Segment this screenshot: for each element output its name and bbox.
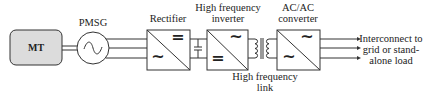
mt-label: MT: [10, 42, 62, 54]
hf-inverter-label-2: inverter: [193, 13, 263, 25]
ac-symbol: ~: [150, 49, 166, 65]
ac-symbol: ~: [281, 49, 297, 65]
acac-label-2: converter: [273, 13, 323, 25]
rectifier-label: Rectifier: [143, 13, 193, 25]
output-label-3: alone load: [359, 55, 423, 67]
transformer-icon: [266, 39, 269, 58]
dc-symbol: =: [210, 50, 226, 66]
pmsg-label: PMSG: [73, 17, 113, 29]
ac-symbol: ~: [299, 29, 315, 45]
hf-link-label-2: link: [225, 82, 305, 94]
dc-symbol: =: [170, 29, 186, 45]
ac-symbol: ~: [228, 29, 244, 45]
transformer-icon: [255, 39, 258, 58]
